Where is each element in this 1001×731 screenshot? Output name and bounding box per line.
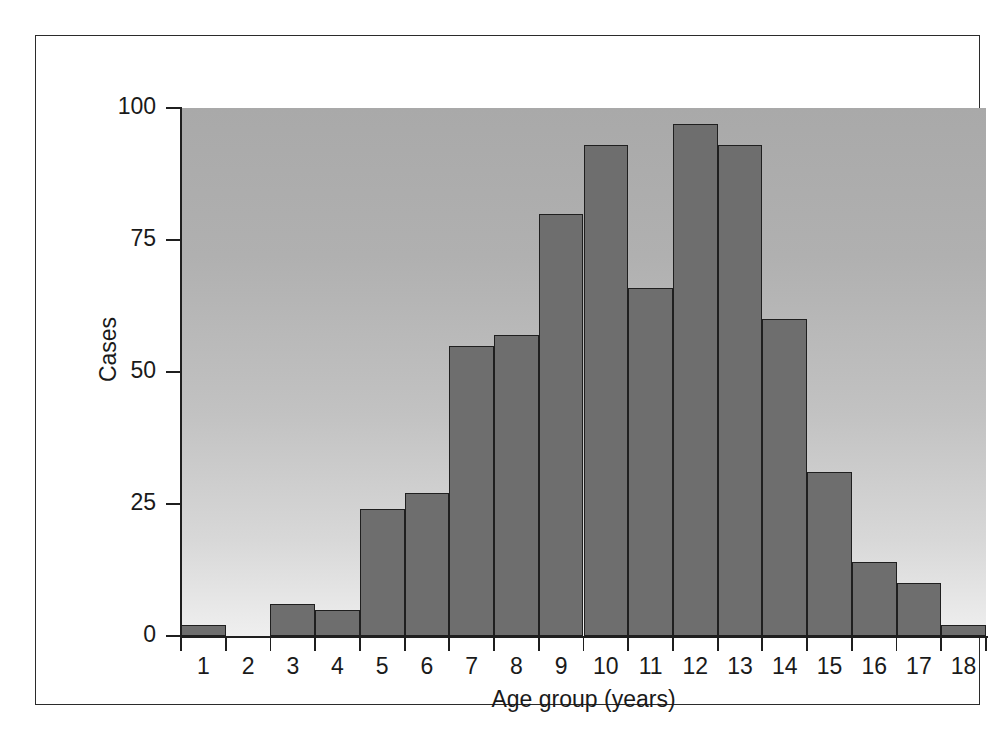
x-axis-tick-label: 4 [316,653,360,680]
bar [673,124,718,636]
x-axis-tick-label: 13 [718,653,762,680]
bar [628,288,673,636]
x-axis-tick [985,638,987,651]
x-axis-tick [180,638,182,651]
y-axis-tick [166,107,180,109]
bar [494,335,539,636]
x-axis-tick [404,638,406,651]
y-axis-title: Cases [95,270,122,430]
bar [360,509,405,636]
x-axis-tick [627,638,629,651]
bar [584,145,629,636]
bar [852,562,897,636]
x-axis-tick [672,638,674,651]
x-axis-tick-label: 12 [673,653,717,680]
x-axis-tick [717,638,719,651]
y-axis-tick [166,503,180,505]
y-axis-line [180,107,182,637]
y-axis-tick [166,635,180,637]
x-axis-tick [538,638,540,651]
bar [270,604,315,636]
x-axis-tick-label: 9 [539,653,583,680]
x-axis-tick-label: 5 [360,653,404,680]
x-axis-tick [896,638,898,651]
x-axis-tick [448,638,450,651]
x-axis-tick-label: 2 [226,653,270,680]
bar [897,583,942,636]
bar [807,472,852,636]
x-axis-tick-label: 7 [450,653,494,680]
y-axis-tick-label: 75 [36,225,156,252]
bar [941,625,986,636]
x-axis-tick [225,638,227,651]
y-axis-tick-label: 0 [36,621,156,648]
x-axis-tick-label: 17 [897,653,941,680]
x-axis-tick-label: 8 [494,653,538,680]
x-axis-tick-label: 15 [807,653,851,680]
x-axis-tick-label: 6 [405,653,449,680]
x-axis-tick-label: 1 [181,653,225,680]
x-axis-tick [493,638,495,651]
bar [449,346,494,636]
bar [405,493,450,636]
bar [718,145,763,636]
x-axis-tick [761,638,763,651]
x-axis-tick [851,638,853,651]
x-axis-tick-label: 16 [852,653,896,680]
x-axis-title: Age group (years) [181,686,986,713]
x-axis-tick-label: 11 [629,653,673,680]
bar [539,214,584,636]
x-axis-tick-label: 18 [942,653,986,680]
figure-container: 0255075100 123456789101112131415161718 C… [0,0,1001,731]
x-axis-tick [583,638,585,651]
bar [762,319,807,636]
plot-area [181,108,986,636]
x-axis-tick [359,638,361,651]
figure-frame: 0255075100 123456789101112131415161718 C… [35,35,980,705]
x-axis-tick [806,638,808,651]
y-axis-tick-label: 25 [36,489,156,516]
x-axis-tick [940,638,942,651]
bar [315,610,360,636]
bar [181,625,226,636]
x-axis-tick [270,638,272,651]
y-axis-tick [166,371,180,373]
x-axis-tick [314,638,316,651]
x-axis-tick-label: 14 [763,653,807,680]
y-axis-tick [166,239,180,241]
x-axis-tick-label: 3 [271,653,315,680]
x-axis-tick-label: 10 [584,653,628,680]
y-axis-tick-label: 100 [36,93,156,120]
